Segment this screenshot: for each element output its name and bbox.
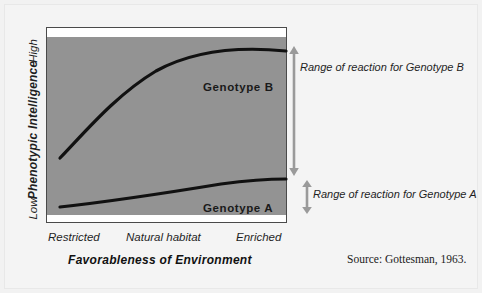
x-axis-tick-enriched: Enriched (236, 231, 281, 243)
x-axis-tick-restricted: Restricted (48, 231, 100, 243)
range-of-reaction-label-a: Range of reaction for Genotype A (313, 188, 476, 200)
y-axis: High Phenotypic Intelligence Low (20, 27, 46, 223)
reaction-range-figure: High Phenotypic Intelligence Low Genotyp… (0, 0, 482, 293)
range-of-reaction-arrow-b (288, 46, 300, 176)
x-axis-tick-natural-habitat: Natural habitat (126, 231, 201, 243)
y-axis-title: Phenotypic Intelligence (26, 61, 40, 200)
x-axis-title: Favorableness of Environment (68, 253, 252, 267)
series-label-genotype-b: Genotype B (203, 81, 274, 93)
source-note: Source: Gottesman, 1963. (347, 253, 466, 265)
curves-layer (46, 27, 287, 223)
series-label-genotype-a: Genotype A (203, 202, 273, 214)
curve-genotype-b (60, 49, 286, 158)
y-axis-high-label: High (27, 39, 39, 63)
range-of-reaction-arrow-a (301, 180, 313, 214)
y-axis-low-label: Low (27, 198, 39, 219)
range-of-reaction-label-b: Range of reaction for Genotype B (300, 61, 464, 73)
